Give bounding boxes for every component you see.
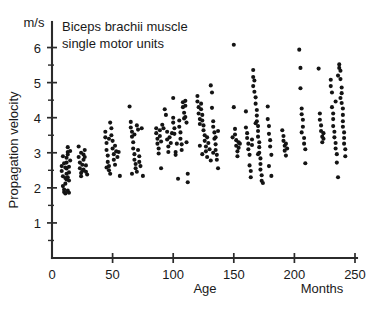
data-point (171, 96, 175, 100)
data-point (183, 99, 187, 103)
data-point (300, 112, 304, 116)
data-point (317, 67, 321, 71)
data-point (64, 177, 68, 181)
data-point (195, 100, 199, 104)
data-point (177, 118, 181, 122)
data-point (160, 123, 164, 127)
data-point (62, 161, 66, 165)
data-point (340, 91, 344, 95)
data-point (250, 137, 254, 141)
data-point (302, 142, 306, 146)
data-point (198, 122, 202, 126)
data-point (77, 144, 81, 148)
data-point (284, 142, 288, 146)
data-point (176, 177, 180, 181)
y-tick-label: 1 (34, 216, 41, 231)
data-point (184, 121, 188, 125)
data-point (115, 155, 119, 159)
data-point (165, 130, 169, 134)
x-axis-title: Age (193, 281, 216, 296)
data-point (285, 147, 289, 151)
data-point (104, 165, 108, 169)
data-point (237, 146, 241, 150)
x-tick-label: 0 (48, 267, 55, 282)
data-point (117, 150, 121, 154)
data-point (154, 131, 158, 135)
data-point (258, 168, 262, 172)
data-point (245, 131, 249, 135)
data-point (136, 148, 140, 152)
data-point (68, 149, 72, 153)
data-point (216, 129, 220, 133)
data-point (266, 104, 270, 108)
data-point (79, 174, 83, 178)
data-point (332, 135, 336, 139)
data-point (330, 90, 334, 94)
data-point (268, 138, 272, 142)
data-point (341, 113, 345, 117)
data-point (235, 154, 239, 158)
data-point (137, 160, 141, 164)
x-tick-label: 150 (223, 267, 245, 282)
data-point (80, 163, 84, 167)
y-tick-label: 2 (34, 181, 41, 196)
data-point (335, 161, 339, 165)
data-point (267, 124, 271, 128)
data-point (106, 154, 110, 158)
data-point (246, 142, 250, 146)
data-point (201, 123, 205, 127)
data-point (303, 147, 307, 151)
data-point (201, 128, 205, 132)
data-point (321, 137, 325, 141)
data-point (331, 117, 335, 121)
data-point (215, 153, 219, 157)
data-point (321, 131, 325, 135)
data-point (209, 158, 213, 162)
data-point (267, 164, 271, 168)
data-point (132, 158, 136, 162)
data-point (183, 115, 187, 119)
data-point (331, 111, 335, 115)
data-point (301, 118, 305, 122)
data-point (63, 182, 67, 186)
data-point (84, 163, 88, 167)
data-point (85, 172, 89, 176)
data-point (269, 153, 273, 157)
data-point (199, 107, 203, 111)
x-tick-label: 100 (162, 267, 184, 282)
plot-canvas: 123456 050100150200250 m/s Biceps brachi… (0, 0, 376, 314)
data-point (137, 154, 141, 158)
data-point (341, 125, 345, 129)
data-point (130, 172, 134, 176)
data-point (302, 136, 306, 140)
data-point (113, 144, 117, 148)
data-point (332, 130, 336, 134)
data-point (109, 126, 113, 130)
data-point (159, 139, 163, 143)
data-point (341, 107, 345, 111)
data-point (131, 147, 135, 151)
data-point (245, 136, 249, 140)
data-point (113, 163, 117, 167)
data-point (157, 151, 161, 155)
data-point (183, 104, 187, 108)
data-point (320, 140, 324, 144)
data-point (256, 129, 260, 133)
data-point (334, 141, 338, 145)
data-point (60, 169, 64, 173)
data-point (157, 147, 161, 151)
data-point (298, 66, 302, 70)
data-point (195, 94, 199, 98)
data-point (255, 114, 259, 118)
data-point (334, 147, 338, 151)
data-point (329, 78, 333, 82)
data-point (199, 102, 203, 106)
data-point (249, 169, 253, 173)
data-point (66, 145, 70, 149)
x-tick-label: 200 (284, 267, 306, 282)
data-point (336, 175, 340, 179)
data-point (140, 126, 144, 130)
y-tick-label: 3 (34, 146, 41, 161)
data-point (252, 78, 256, 82)
data-point (200, 118, 204, 122)
